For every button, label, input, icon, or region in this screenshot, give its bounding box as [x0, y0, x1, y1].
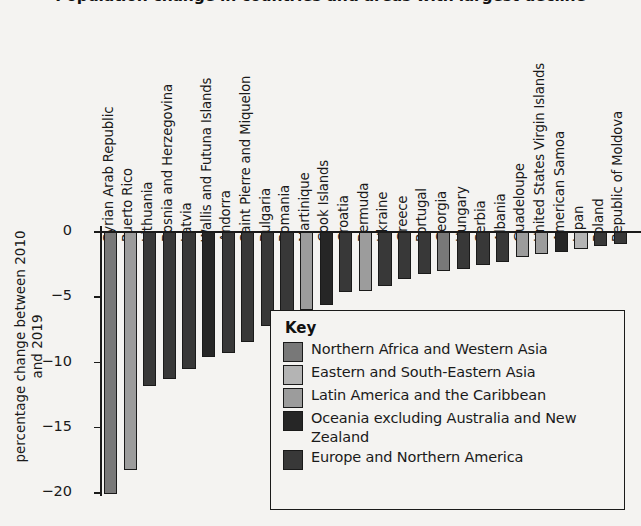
legend-label: Oceania excluding Australia and New Zeal… — [311, 409, 614, 447]
bar — [300, 232, 313, 310]
y-tick-label: −20 — [41, 483, 72, 499]
bar — [418, 232, 431, 274]
category-label: Puerto Rico — [120, 168, 135, 242]
legend-color-swatch — [283, 388, 303, 408]
bar — [457, 232, 470, 269]
bar — [241, 232, 254, 342]
category-label: American Samoa — [552, 131, 567, 242]
bar — [398, 232, 411, 279]
category-label: Wallis and Futuna Islands — [199, 78, 214, 242]
category-label: Syrian Arab Republic — [101, 107, 116, 242]
category-label: Guadeloupe — [512, 163, 527, 242]
bar — [594, 232, 607, 246]
legend-title: Key — [285, 319, 614, 337]
bar — [476, 232, 489, 265]
bar — [202, 232, 215, 357]
bar — [555, 232, 568, 252]
bar — [163, 232, 176, 379]
bar — [124, 232, 137, 470]
legend-items: Northern Africa and Western AsiaEastern … — [283, 340, 614, 470]
legend-label: Northern Africa and Western Asia — [311, 340, 548, 359]
category-label: Bosnia and Herzegovina — [160, 84, 175, 242]
bar — [280, 232, 293, 314]
bar — [437, 232, 450, 271]
legend-item[interactable]: Oceania excluding Australia and New Zeal… — [283, 409, 614, 447]
category-label: Cook Islands — [316, 160, 331, 242]
bar — [614, 232, 627, 244]
bar — [378, 232, 391, 286]
bar — [143, 232, 156, 386]
legend-color-swatch — [283, 342, 303, 362]
legend-color-swatch — [283, 450, 303, 470]
legend-color-swatch — [283, 365, 303, 385]
bar — [182, 232, 195, 369]
legend-box: Key Northern Africa and Western AsiaEast… — [270, 310, 625, 510]
legend-label: Eastern and South-Eastern Asia — [311, 363, 536, 382]
y-tick-label: −15 — [41, 418, 72, 434]
bar-chart: Population change in countries and areas… — [0, 0, 641, 526]
bar — [359, 232, 372, 291]
y-tick-label: −10 — [41, 353, 72, 369]
y-tick-label: −5 — [51, 287, 72, 303]
bar — [320, 232, 333, 305]
bar — [104, 232, 117, 494]
category-label: Saint Pierre and Miquelon — [238, 76, 253, 242]
bar — [339, 232, 352, 292]
legend-item[interactable]: Europe and Northern America — [283, 448, 614, 470]
legend-label: Latin America and the Caribbean — [311, 386, 546, 405]
legend-item[interactable]: Northern Africa and Western Asia — [283, 340, 614, 362]
legend-label: Europe and Northern America — [311, 448, 523, 467]
legend-color-swatch — [283, 411, 303, 431]
bar — [516, 232, 529, 257]
bar — [222, 232, 235, 353]
bar — [535, 232, 548, 254]
bar — [574, 232, 587, 249]
legend-item[interactable]: Latin America and the Caribbean — [283, 386, 614, 408]
x-axis-category-labels: Syrian Arab RepublicPuerto RicoLithuania… — [0, 0, 641, 232]
category-label: United States Virgin Islands — [532, 63, 547, 242]
legend-item[interactable]: Eastern and South-Eastern Asia — [283, 363, 614, 385]
category-label: Republic of Moldova — [610, 111, 625, 242]
bar — [496, 232, 509, 262]
